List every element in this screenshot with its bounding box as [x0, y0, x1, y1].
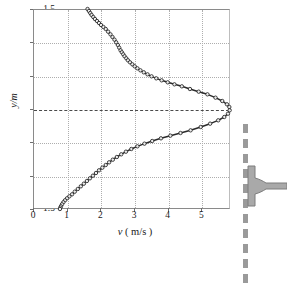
gridline-vertical: [68, 10, 69, 208]
x-tick-label: 3: [125, 211, 143, 221]
x-tick-label: 1: [58, 211, 76, 221]
nozzle-outlet-icon: [246, 164, 287, 208]
plot-inner: [34, 10, 229, 208]
x-tick-label: 5: [192, 211, 210, 221]
zero-axis-line: [34, 110, 229, 111]
x-tick-label: 4: [159, 211, 177, 221]
x-axis-title: v ( m/s ): [60, 226, 210, 237]
x-tick-label: 0: [24, 211, 42, 221]
x-axis-unit: ( m/s ): [122, 226, 152, 237]
gridline-horizontal: [34, 143, 229, 144]
y-axis-title: y/m: [8, 87, 19, 115]
gridline-vertical: [101, 10, 102, 208]
plot-area: [33, 9, 230, 209]
gridline-vertical: [202, 10, 203, 208]
gridline-horizontal: [34, 77, 229, 78]
nozzle-inset: [234, 124, 287, 287]
gridline-horizontal: [34, 43, 229, 44]
x-tick-label: 2: [91, 211, 109, 221]
gridline-vertical: [135, 10, 136, 208]
figure-root: y/m 1.5 1.0 0.5 0 -0.5 -1.0 -1.5: [0, 0, 287, 287]
gridline-vertical: [169, 10, 170, 208]
gridline-horizontal: [34, 177, 229, 178]
